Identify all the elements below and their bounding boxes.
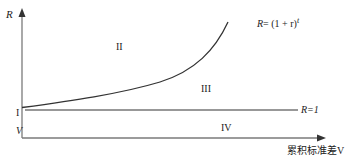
growth-curve bbox=[22, 22, 228, 108]
diagram-canvas: R 累积标准差V R= (1 + r)t R=1 I II III IV V bbox=[0, 0, 353, 160]
curve-equation-label: R= (1 + r)t bbox=[256, 16, 300, 30]
region-label-v: V bbox=[16, 125, 24, 136]
y-axis-arrow-icon bbox=[19, 8, 26, 17]
curve-equation-prefix: R bbox=[256, 18, 263, 29]
curve-equation-exponent: t bbox=[297, 16, 300, 25]
region-label-iii: III bbox=[201, 83, 211, 94]
region-label-i: I bbox=[16, 107, 19, 118]
x-axis-label: 累积标准差V bbox=[287, 144, 345, 156]
region-label-ii: II bbox=[116, 41, 123, 52]
region-label-iv: IV bbox=[221, 122, 232, 133]
baseline-label: R=1 bbox=[300, 104, 319, 115]
y-axis-label: R bbox=[5, 8, 13, 20]
x-axis-arrow-icon bbox=[317, 135, 326, 142]
curve-equation-body: = (1 + r) bbox=[263, 18, 297, 30]
x-axis-label-text: 累积标准差V bbox=[287, 144, 345, 156]
